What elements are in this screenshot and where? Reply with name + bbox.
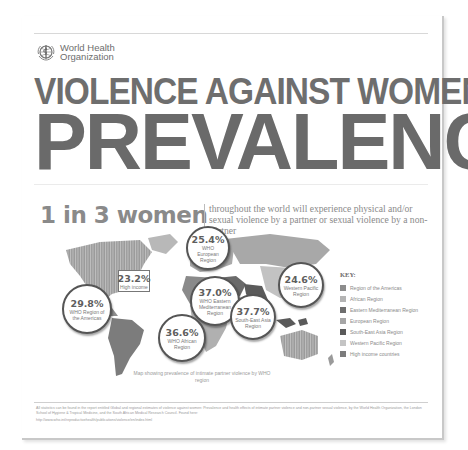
- region-bubble-americas: 29.8% WHO Region of the Americas: [62, 284, 112, 334]
- key-swatch: [340, 285, 346, 291]
- key-label: European Region: [350, 318, 389, 324]
- key-swatch: [340, 351, 346, 357]
- who-emblem-icon: [36, 42, 56, 62]
- world-map: 29.8% WHO Region of the Americas 23.2% H…: [40, 224, 340, 384]
- region-label: WHO African Region: [160, 338, 204, 350]
- footer-divider: [34, 402, 428, 403]
- key-label: African Region: [350, 296, 383, 302]
- key-item-americas: Region of the Americas: [340, 282, 418, 293]
- region-label: South-East Asia Region: [232, 317, 274, 329]
- region-label: WHO European Region: [188, 245, 228, 263]
- region-label: Western Pacific Region: [280, 285, 322, 297]
- region-value: 37.0%: [199, 287, 232, 298]
- key-title: KEY:: [340, 271, 418, 278]
- region-value: 37.7%: [237, 306, 270, 317]
- key-label: Region of the Americas: [350, 285, 402, 291]
- key-item-african: African Region: [340, 293, 418, 304]
- key-item-south-east-asia: South-East Asia Region: [340, 326, 418, 337]
- key-label: High income countries: [350, 351, 399, 357]
- key-label: Eastern Mediterranean Region: [350, 307, 418, 313]
- key-item-high-income: High income countries: [340, 348, 418, 359]
- key-swatch: [340, 296, 346, 302]
- region-label: High income: [120, 284, 148, 290]
- source-footnote: All statistics can be found in the repor…: [36, 406, 428, 423]
- region-value: 23.2%: [118, 273, 151, 284]
- region-value: 25.4%: [192, 234, 225, 245]
- key-swatch: [340, 340, 346, 346]
- key-label: South-East Asia Region: [350, 329, 403, 335]
- region-bubble-europe: 25.4% WHO European Region: [186, 226, 230, 270]
- region-bubble-western-pacific: 24.6% Western Pacific Region: [278, 262, 324, 308]
- region-box-high-income: 23.2% High income: [118, 270, 150, 292]
- region-value: 29.8%: [71, 298, 104, 309]
- org-name: World Health Organization: [60, 43, 115, 61]
- key-swatch: [340, 329, 346, 335]
- map-key: KEY: Region of the Americas African Regi…: [340, 271, 418, 359]
- source-text: All statistics can be found in the repor…: [36, 406, 422, 415]
- region-bubble-south-east-asia: 37.7% South-East Asia Region: [230, 294, 276, 340]
- key-item-western-pacific: Western Pacific Region: [340, 337, 418, 348]
- mid-divider: [34, 184, 428, 185]
- key-swatch: [340, 318, 346, 324]
- org-name-line2: Organization: [60, 52, 115, 61]
- title-line2: PREVALENCE: [34, 102, 468, 182]
- map-caption: Map showing prevalence of intimate partn…: [132, 370, 272, 383]
- infographic-sheet: World Health Organization VIOLENCE AGAIN…: [22, 16, 444, 440]
- region-label: WHO Region of the Americas: [64, 309, 110, 321]
- key-item-european: European Region: [340, 315, 418, 326]
- top-divider: [34, 33, 428, 34]
- key-item-eastern-mediterranean: Eastern Mediterranean Region: [340, 304, 418, 315]
- source-url[interactable]: http://www.who.int/reproductivehealth/pu…: [36, 418, 428, 423]
- region-bubble-africa: 36.6% WHO African Region: [158, 314, 206, 362]
- key-swatch: [340, 307, 346, 313]
- region-value: 24.6%: [285, 274, 318, 285]
- who-logo: World Health Organization: [36, 42, 115, 62]
- region-value: 36.6%: [166, 327, 199, 338]
- key-label: Western Pacific Region: [350, 340, 402, 346]
